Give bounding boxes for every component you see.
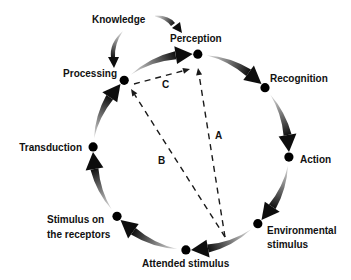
label-perception: Perception [170,33,222,44]
node-environmental-stimulus [253,219,262,228]
path-label-c: C [162,79,169,90]
label-action: Action [300,154,331,165]
arrowhead-icon [108,57,119,68]
cycle-arrow-perception-to-recognition [206,55,261,84]
arrowhead-icon [86,152,104,171]
knowledge-to-processing-arrow [108,31,123,68]
node-transduction [89,142,98,151]
cycle-arrow-action-to-environmental [262,166,289,221]
label-environmental-stimulus-line1: Environmental [267,225,337,236]
cycle-arrow-environmental-to-attended [191,229,251,257]
perceptual-process-diagram: A B C Knowledge Perception Recognition A… [0,0,351,280]
cycle-arrow-receptors-to-transduction [86,152,112,210]
dashed-path-b [131,89,225,237]
label-environmental-stimulus-line2: stimulus [267,239,309,250]
label-recognition: Recognition [270,73,328,84]
label-knowledge: Knowledge [92,14,146,25]
label-stimulus-on-receptors-line2: the receptors [47,229,111,240]
knowledge-to-perception-arrow [155,15,182,33]
node-stimulus-on-receptors [112,212,121,221]
node-perception [193,50,202,59]
arrowhead-icon [182,68,190,74]
path-label-a: A [215,130,222,141]
node-attended-stimulus [181,245,190,254]
arrowhead-icon [191,240,210,258]
node-action [284,153,293,162]
label-processing: Processing [63,68,117,79]
arrowhead-icon [131,89,137,97]
arrowhead-icon [279,133,297,152]
path-label-b: B [158,155,165,166]
arrowhead-icon [196,68,202,75]
dashed-path-a [196,68,225,237]
label-stimulus-on-receptors-line1: Stimulus on [47,214,104,225]
node-recognition [260,83,269,92]
cycle-arrow-transduction-to-processing [94,84,121,138]
label-transduction: Transduction [19,142,82,153]
cycle-arrow-recognition-to-action [270,94,296,152]
arrowhead-icon [174,46,192,64]
node-processing [120,76,129,85]
cycle-arrow-attended-to-receptors [121,220,178,249]
label-attended-stimulus: Attended stimulus [142,258,230,269]
